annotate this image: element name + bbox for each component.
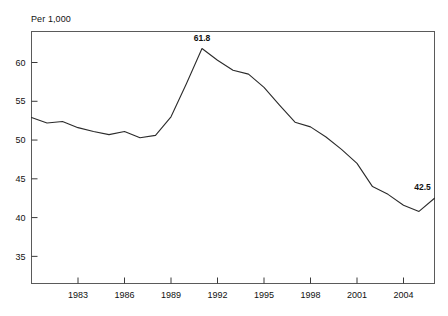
data-label: 42.5 [414, 182, 431, 192]
x-tick-label: 2001 [347, 290, 367, 300]
y-tick-label: 35 [15, 252, 25, 262]
y-tick-label: 60 [15, 58, 25, 68]
x-tick-label: 2004 [393, 290, 413, 300]
x-tick-label: 1992 [207, 290, 227, 300]
x-tick-label: 1983 [68, 290, 88, 300]
x-tick-label: 1986 [114, 290, 134, 300]
data-series-line [32, 49, 435, 212]
x-tick-label: 1989 [161, 290, 181, 300]
y-tick-label: 55 [15, 96, 25, 106]
x-axis-ticks [78, 278, 404, 284]
chart-plot-area: 354045505560 198319861989199219951998200… [0, 0, 448, 316]
data-point-annotations: 61.842.5 [194, 33, 431, 193]
y-axis-tick-labels: 354045505560 [15, 58, 25, 262]
y-tick-label: 50 [15, 135, 25, 145]
x-tick-label: 1995 [254, 290, 274, 300]
y-tick-label: 45 [15, 174, 25, 184]
plot-frame [32, 32, 435, 284]
line-chart: Per 1,000 354045505560 19831986198919921… [0, 0, 448, 316]
x-axis-tick-labels: 19831986198919921995199820012004 [68, 290, 414, 300]
y-tick-label: 40 [15, 213, 25, 223]
x-tick-label: 1998 [300, 290, 320, 300]
y-axis-ticks [32, 63, 38, 257]
data-label: 61.8 [194, 33, 211, 43]
